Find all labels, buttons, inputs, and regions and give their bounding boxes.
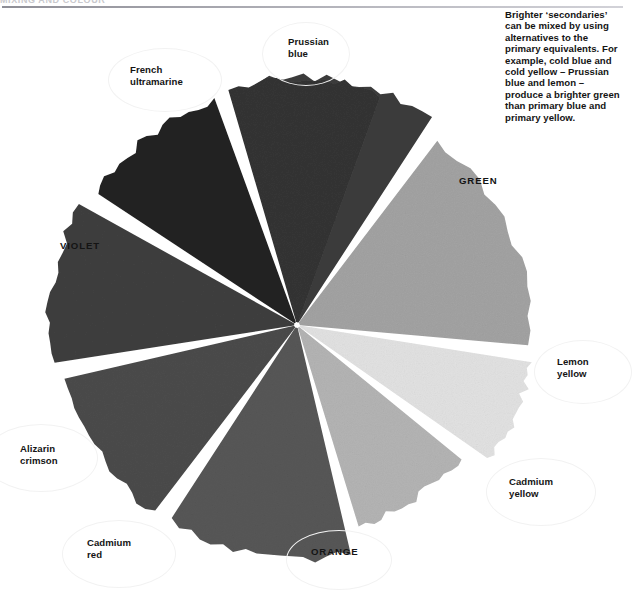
wheel-label-cadmium-red: Cadmium red <box>87 537 131 560</box>
wheel-label-orange: ORANGE <box>311 546 359 558</box>
wheel-label-cadmium-yellow: Cadmium yellow <box>509 476 553 499</box>
wheel-wedges <box>45 73 532 562</box>
wheel-label-violet: VIOLET <box>60 240 100 252</box>
wheel-label-lemon-yellow: Lemon yellow <box>557 356 589 379</box>
wheel-label-prussian-blue: Prussian blue <box>288 36 329 59</box>
wheel-label-french-ultramarine: French ultramarine <box>130 64 183 87</box>
wheel-label-green: GREEN <box>459 175 498 187</box>
wheel-label-alizarin-crimson: Alizarin crimson <box>20 443 58 466</box>
